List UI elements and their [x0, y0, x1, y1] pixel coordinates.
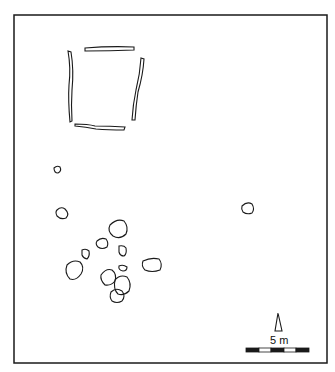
pit [119, 265, 127, 271]
pit [110, 289, 124, 302]
pit [242, 203, 254, 214]
pit [119, 246, 126, 256]
ditch-north [85, 47, 134, 51]
scale-segment [284, 348, 296, 352]
scale-label: 5 m [270, 334, 288, 346]
pit [142, 258, 161, 271]
pit [109, 220, 127, 238]
pit [96, 238, 108, 248]
pit [82, 249, 89, 259]
pit [66, 261, 83, 279]
pit [54, 166, 61, 173]
pit [101, 270, 116, 286]
north-arrow-icon [275, 313, 282, 331]
scale-bar [246, 348, 309, 352]
scale-segment [246, 348, 259, 352]
ditch-south [75, 124, 125, 130]
site-plan: 5 m [0, 0, 335, 372]
ditch-east [132, 58, 144, 120]
scale-segment [296, 348, 309, 352]
scale-segment [259, 348, 271, 352]
scale-segment [271, 348, 284, 352]
enclosure [68, 47, 144, 130]
plan-frame [14, 15, 327, 363]
pit [56, 208, 68, 219]
ditch-west [68, 51, 73, 122]
pits [54, 166, 254, 302]
